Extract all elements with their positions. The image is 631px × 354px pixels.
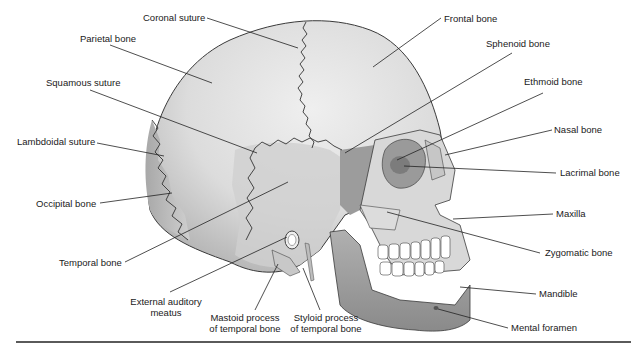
label-mental-foramen: Mental foramen: [511, 322, 577, 333]
label-mastoid-process: Mastoid process of temporal bone: [205, 312, 285, 334]
label-mandible: Mandible: [539, 288, 578, 299]
label-ethmoid-bone: Ethmoid bone: [524, 76, 583, 87]
label-external-auditory-meatus: External auditory meatus: [126, 296, 206, 318]
label-line-2: of temporal bone: [205, 323, 285, 334]
label-lambdoidal-suture: Lambdoidal suture: [17, 136, 95, 147]
label-occipital-bone: Occipital bone: [36, 198, 96, 209]
label-styloid-process: Styloid process of temporal bone: [286, 312, 366, 334]
leader-mandible: [460, 287, 536, 294]
label-maxilla: Maxilla: [556, 208, 586, 219]
label-zygomatic-bone: Zygomatic bone: [545, 247, 613, 258]
label-line-2: of temporal bone: [286, 323, 366, 334]
label-line-1: External auditory: [126, 296, 206, 307]
leader-nasal-bone: [445, 130, 552, 155]
label-line-1: Mastoid process: [205, 312, 285, 323]
label-line-1: Styloid process: [286, 312, 366, 323]
label-parietal-bone: Parietal bone: [80, 33, 136, 44]
temporal-bone-region: [232, 143, 345, 268]
label-temporal-bone: Temporal bone: [59, 257, 122, 268]
leader-maxilla: [453, 214, 553, 219]
label-frontal-bone: Frontal bone: [444, 13, 497, 24]
label-line-2: meatus: [126, 307, 206, 318]
mental-foramen: [434, 306, 439, 310]
skull-illustration: [0, 0, 631, 354]
label-coronal-suture: Coronal suture: [143, 12, 205, 23]
label-lacrimal-bone: Lacrimal bone: [560, 167, 620, 178]
label-nasal-bone: Nasal bone: [554, 124, 602, 135]
label-sphenoid-bone: Sphenoid bone: [486, 38, 550, 49]
bottom-divider: [16, 341, 631, 343]
label-squamous-suture: Squamous suture: [46, 77, 120, 88]
